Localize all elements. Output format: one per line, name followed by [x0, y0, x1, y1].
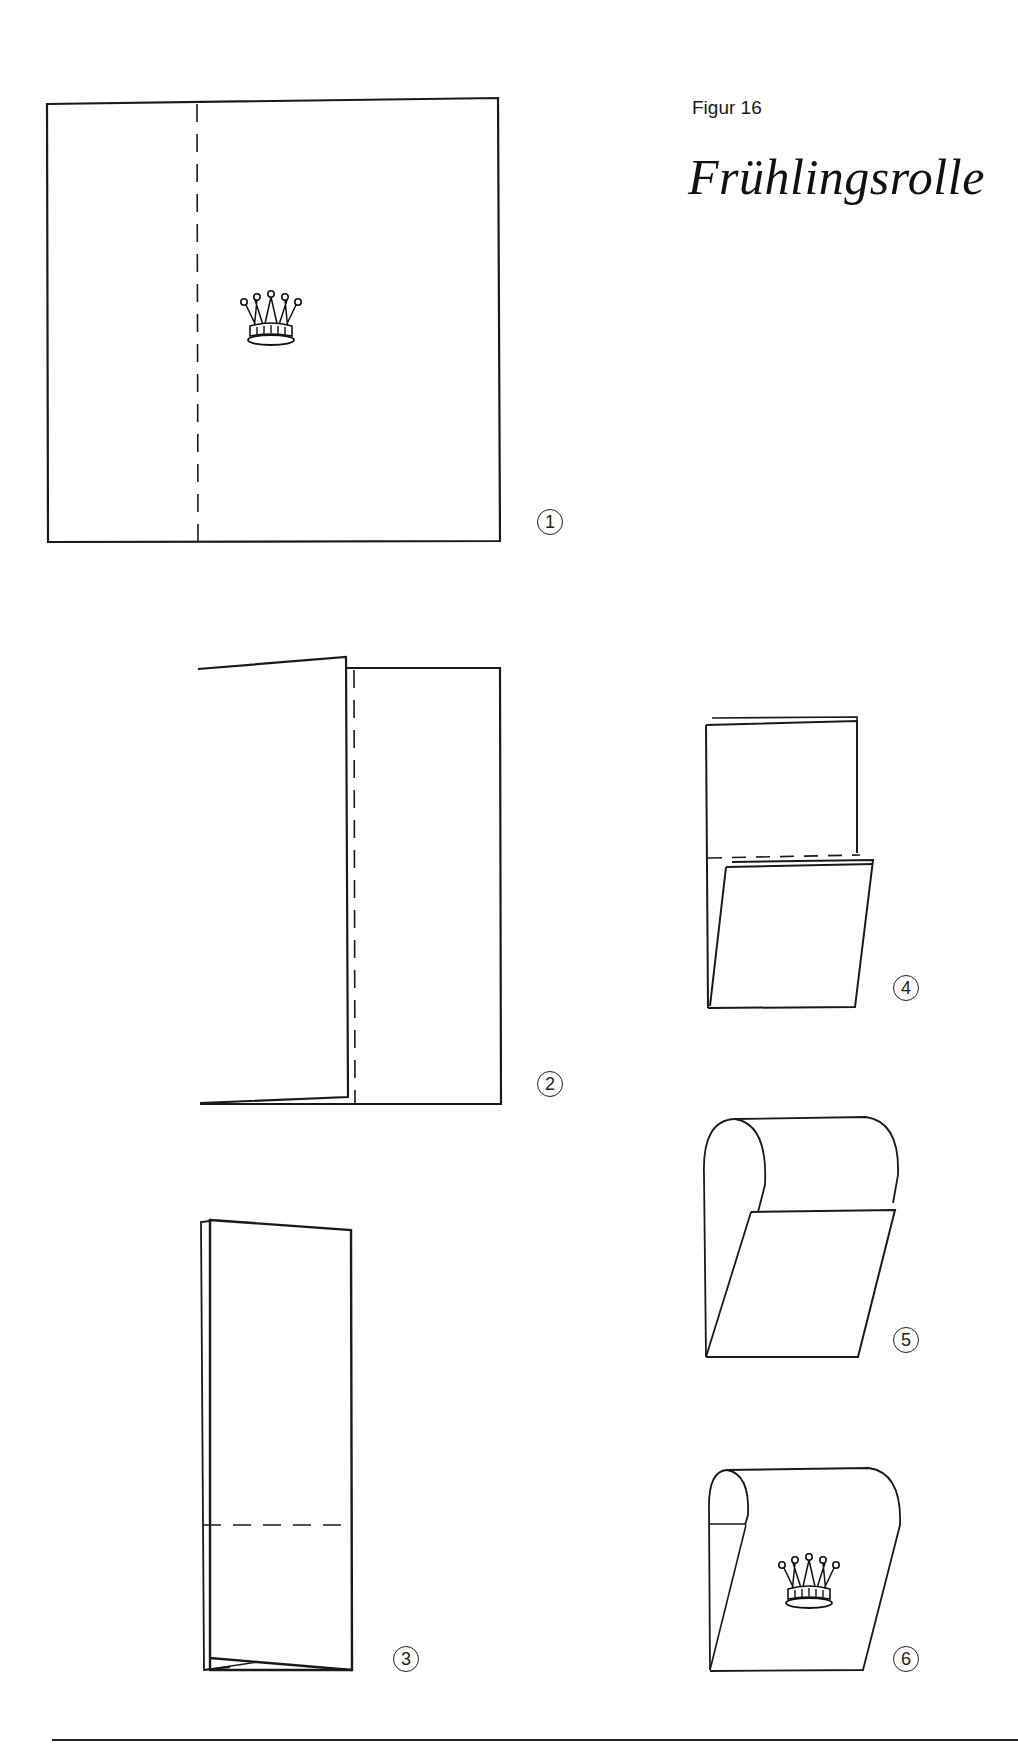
page: Figur 16 Frühlingsrolle: [0, 0, 1018, 1749]
step-3-drawing: [201, 1220, 352, 1670]
step-2-drawing: [198, 657, 501, 1104]
step-number-5: 5: [893, 1327, 919, 1353]
step-5-drawing: [704, 1117, 898, 1357]
step-number-2: 2: [537, 1071, 563, 1097]
step-number-3: 3: [393, 1646, 419, 1672]
step-1-drawing: [47, 98, 500, 542]
crown-icon: [241, 291, 301, 345]
crown-icon: [779, 1554, 839, 1608]
step-number-4: 4: [893, 975, 919, 1001]
step-number-1: 1: [537, 509, 563, 535]
folding-diagram: [0, 0, 1018, 1749]
step-6-drawing: [709, 1468, 900, 1671]
step-4-drawing: [706, 717, 873, 1008]
step-number-6: 6: [893, 1646, 919, 1672]
